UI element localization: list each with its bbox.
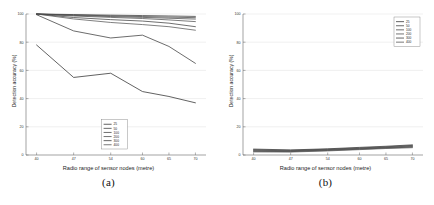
y-tick-label: 100 <box>235 12 241 16</box>
legend-label: 400 <box>114 143 120 147</box>
y-tick-label: 40 <box>20 97 24 101</box>
x-tick-label: 54 <box>109 157 113 161</box>
y-tick-label: 80 <box>20 41 24 45</box>
x-tick-label: 54 <box>326 157 330 161</box>
x-tick-label: 65 <box>384 157 388 161</box>
chart-legend: 2550100200300400 <box>394 17 420 46</box>
chart-a-svg: 0204060801004047546065702550100200300400 <box>0 0 217 178</box>
y-tick-label: 80 <box>237 41 241 45</box>
x-tick-label: 65 <box>167 157 171 161</box>
plot-area-a: 0204060801004047546065702550100200300400 <box>0 0 217 178</box>
y-tick-label: 20 <box>20 125 24 129</box>
x-tick-label: 60 <box>140 157 144 161</box>
x-axis-label-a: Radio range of sensor nodes (metre) <box>0 165 217 171</box>
figure-two-panel-line-charts: 0204060801004047546065702550100200300400… <box>0 0 434 205</box>
panel-caption-a: (a) <box>0 176 217 188</box>
x-axis-label-b: Radio range of sensor nodes (metre) <box>217 165 434 171</box>
x-tick-label: 60 <box>357 157 361 161</box>
y-tick-label: 60 <box>20 69 24 73</box>
panel-a: 0204060801004047546065702550100200300400… <box>0 0 217 205</box>
series-line <box>37 15 196 64</box>
x-tick-label: 70 <box>193 157 197 161</box>
y-tick-label: 60 <box>237 69 241 73</box>
y-tick-label: 40 <box>237 97 241 101</box>
x-tick-label: 40 <box>252 157 256 161</box>
plot-area-b: 0204060801004047546065702550100200300400 <box>217 0 434 178</box>
legend-label: 400 <box>406 40 412 44</box>
y-tick-label: 0 <box>239 153 241 157</box>
y-axis-label-b: Detection accuracy (%) <box>228 21 234 141</box>
x-tick-label: 70 <box>410 157 414 161</box>
x-tick-label: 40 <box>35 157 39 161</box>
panel-b: 0204060801004047546065702550100200300400… <box>217 0 434 205</box>
x-tick-label: 47 <box>289 157 293 161</box>
chart-legend: 2550100200300400 <box>102 120 128 149</box>
chart-b-svg: 0204060801004047546065702550100200300400 <box>217 0 434 178</box>
y-tick-label: 0 <box>22 153 24 157</box>
x-tick-label: 47 <box>72 157 76 161</box>
y-tick-label: 100 <box>18 12 24 16</box>
series-line <box>37 45 196 103</box>
panel-caption-b: (b) <box>217 176 434 188</box>
y-axis-label-a: Detection accuracy (%) <box>11 21 17 141</box>
y-tick-label: 20 <box>237 125 241 129</box>
